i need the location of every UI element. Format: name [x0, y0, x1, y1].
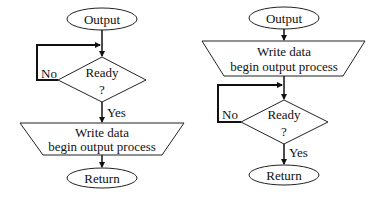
left-decision-label-line1: Ready [85, 65, 119, 80]
right-process-label-line2: begin output process [230, 59, 338, 74]
flowchart-canvas: Output Ready ? No Yes Write data begin o… [0, 0, 379, 200]
right-flowchart: Output Write data begin output process R… [202, 7, 365, 185]
left-process-label-line1: Write data [75, 125, 129, 140]
left-process-label-line2: begin output process [48, 139, 156, 154]
left-start-label: Output [84, 12, 121, 27]
left-decision-label-line2: ? [99, 82, 105, 97]
right-start-label: Output [266, 11, 303, 26]
right-decision-label-line2: ? [281, 124, 287, 139]
right-no-label: No [222, 107, 238, 122]
left-flowchart: Output Ready ? No Yes Write data begin o… [20, 8, 184, 188]
right-decision-label-line1: Ready [267, 107, 301, 122]
right-process-label-line1: Write data [257, 44, 311, 59]
left-no-label: No [41, 66, 57, 81]
left-end-label: Return [84, 171, 120, 186]
right-yes-label: Yes [289, 145, 308, 160]
right-end-label: Return [266, 168, 302, 183]
left-yes-label: Yes [107, 105, 126, 120]
